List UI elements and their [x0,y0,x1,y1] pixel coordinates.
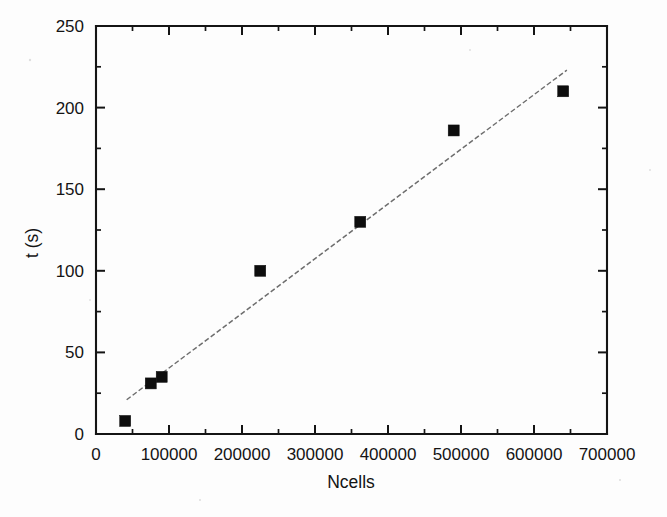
x-tick-label: 600000 [506,445,563,464]
x-axis-tick-labels: 0100000200000300000400000500000600000700… [91,445,635,464]
y-axis-ticks [96,26,105,434]
x-tick-label: 200000 [214,445,271,464]
data-point-markers [120,86,569,427]
x-axis-ticks-top [96,26,607,35]
y-tick-label: 150 [56,180,84,199]
data-point-marker [255,265,266,276]
x-tick-label: 500000 [433,445,490,464]
chart-figure: 0100000200000300000400000500000600000700… [0,0,667,517]
data-point-marker [156,371,167,382]
data-point-marker [558,86,569,97]
fit-line-path [127,70,567,400]
y-tick-label: 50 [65,343,84,362]
y-axis-tick-labels: 050100150200250 [56,17,84,444]
x-axis-title: Ncells [327,472,375,492]
y-tick-label: 100 [56,262,84,281]
y-tick-label: 250 [56,17,84,36]
scatter-plot-svg: 0100000200000300000400000500000600000700… [0,0,667,517]
x-tick-label: 700000 [579,445,636,464]
x-tick-label: 100000 [141,445,198,464]
plot-frame [96,26,607,434]
y-axis-title: t (s) [22,228,42,258]
y-tick-label: 200 [56,99,84,118]
data-point-marker [145,378,156,389]
data-point-marker [448,125,459,136]
y-axis-ticks-right [598,26,607,434]
x-axis-ticks [96,425,607,434]
y-tick-label: 0 [75,425,84,444]
data-point-marker [355,216,366,227]
x-tick-label: 300000 [287,445,344,464]
linear-fit-line [127,70,567,400]
x-tick-label: 400000 [360,445,417,464]
x-tick-label: 0 [91,445,100,464]
data-point-marker [120,415,131,426]
